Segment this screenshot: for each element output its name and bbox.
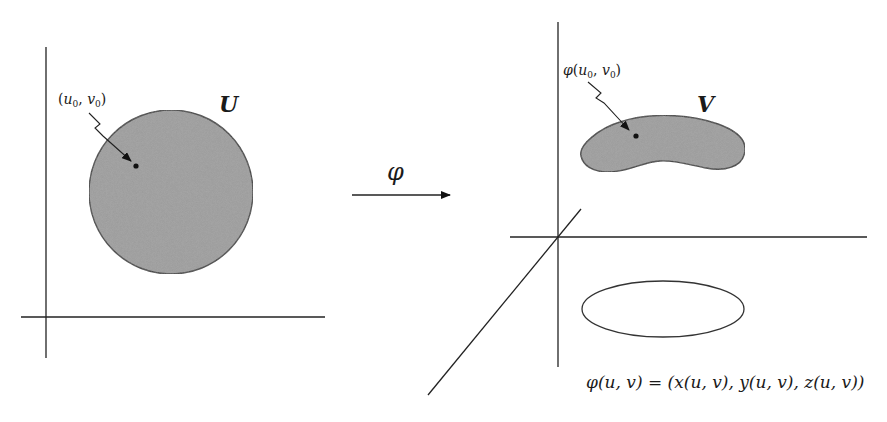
phi-func: φ (563, 62, 573, 78)
diagram-svg (0, 0, 887, 422)
close-paren: ) (616, 62, 621, 78)
v-var: v (602, 62, 610, 78)
u-var: u (578, 62, 587, 78)
comma: , (78, 91, 87, 107)
domain-u-disk (89, 110, 253, 274)
projection-ellipse (582, 281, 744, 337)
right-point-pointer (588, 82, 629, 130)
parametrization-formula: φ(u, v) = (x(u, v), y(u, v), z(u, v)) (586, 374, 864, 391)
map-phi-label: φ (387, 160, 404, 184)
close-paren: ) (101, 91, 106, 107)
left-point-dot (133, 163, 138, 168)
comma: , (593, 62, 602, 78)
image-surface-v (581, 115, 745, 172)
left-point-label: (u0, v0) (58, 92, 106, 109)
right-axes (428, 22, 867, 395)
domain-u-label: U (219, 93, 238, 115)
diagram-canvas: U (u0, v0) φ V φ(u0, v0) φ(u, v) = (x(u,… (0, 0, 887, 422)
right-point-label: φ(u0, v0) (563, 63, 621, 80)
right-point-dot (633, 133, 638, 138)
v-var: v (87, 91, 95, 107)
image-v-label: V (697, 93, 714, 115)
u-var: u (63, 91, 72, 107)
